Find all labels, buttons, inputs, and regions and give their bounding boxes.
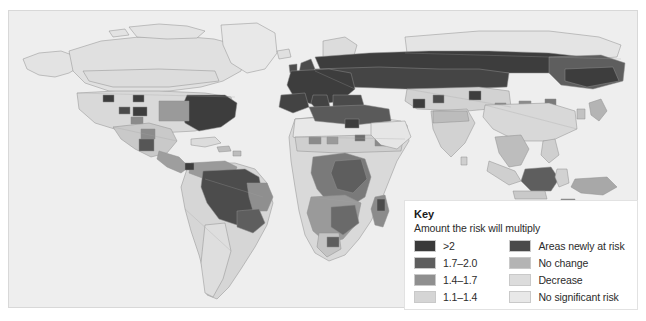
legend-item-no-significant-risk: No significant risk [509, 289, 628, 304]
legend-swatch-newly-at-risk [509, 240, 531, 252]
map-legend: Key Amount the risk will multiply >2 1.7… [404, 200, 638, 310]
region-usa-patch-2 [133, 95, 144, 102]
legend-swatch-gt2 [414, 240, 436, 252]
region-korea [577, 109, 585, 119]
region-iceland [277, 49, 291, 59]
region-mexico-patch-1 [141, 129, 155, 139]
region-usa-patch-1 [103, 95, 114, 102]
legend-swatch-1-1-1-4 [414, 291, 436, 303]
legend-swatch-no-change [509, 257, 531, 269]
region-colombia-patch [185, 163, 194, 170]
legend-label-no-significant-risk: No significant risk [538, 291, 618, 303]
region-lesser-antilles [233, 151, 241, 156]
legend-swatch-no-significant-risk [509, 291, 531, 303]
legend-item-gt2: >2 [414, 238, 505, 253]
legend-label-1-4-1-7: 1.4–1.7 [443, 274, 477, 286]
legend-label-decrease: Decrease [538, 274, 582, 286]
legend-label-1-1-1-4: 1.1–1.4 [443, 291, 477, 303]
legend-label-no-change: No change [538, 257, 588, 269]
legend-column-left: >2 1.7–2.0 1.4–1.7 1.1–1.4 [414, 238, 505, 304]
region-usa-central-moderate [159, 101, 189, 121]
legend-item-1-1-1-4: 1.1–1.4 [414, 289, 505, 304]
legend-label-gt2: >2 [443, 240, 455, 252]
region-south-africa-patch [327, 237, 339, 247]
region-usa-patch-4 [133, 107, 147, 116]
legend-subtitle: Amount the risk will multiply [414, 222, 628, 235]
figure-root: Key Amount the risk will multiply >2 1.7… [0, 0, 646, 321]
legend-item-decrease: Decrease [509, 272, 628, 287]
region-levant-patch [345, 119, 359, 128]
region-java [513, 191, 547, 199]
region-usa-patch-5 [131, 117, 143, 124]
region-mexico-patch-2 [139, 139, 154, 151]
legend-title: Key [414, 208, 628, 221]
region-north-india [433, 111, 469, 123]
region-sahel-patch-1 [309, 137, 321, 144]
legend-item-newly-at-risk: Areas newly at risk [509, 238, 628, 253]
legend-swatch-1-7-2-0 [414, 257, 436, 269]
region-central-asia-patch-1 [413, 99, 425, 108]
legend-columns: >2 1.7–2.0 1.4–1.7 1.1–1.4 Ar [414, 238, 628, 304]
legend-item-1-4-1-7: 1.4–1.7 [414, 272, 505, 287]
region-madagascar-patch [377, 199, 385, 211]
legend-item-no-change: No change [509, 255, 628, 270]
legend-item-1-7-2-0: 1.7–2.0 [414, 255, 505, 270]
region-hispaniola [217, 146, 231, 152]
region-sri-lanka [461, 157, 467, 165]
region-sahel-patch-2 [327, 137, 338, 144]
legend-swatch-1-4-1-7 [414, 274, 436, 286]
legend-swatch-decrease [509, 274, 531, 286]
legend-column-right: Areas newly at risk No change Decrease N… [509, 238, 628, 304]
legend-label-newly-at-risk: Areas newly at risk [538, 240, 624, 252]
region-central-asia-patch-3 [469, 91, 481, 100]
region-usa-patch-3 [119, 107, 130, 114]
legend-label-1-7-2-0: 1.7–2.0 [443, 257, 477, 269]
region-central-asia-patch-2 [433, 95, 444, 103]
